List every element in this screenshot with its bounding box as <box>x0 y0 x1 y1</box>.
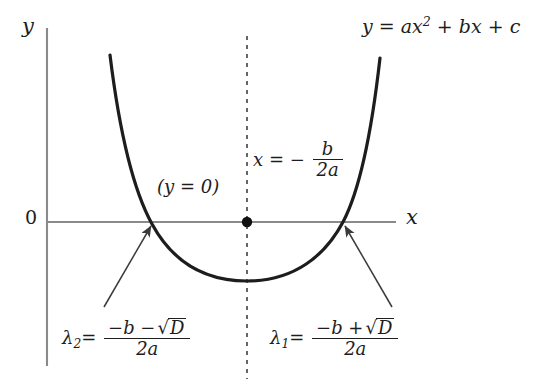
lambda1-symbol: λ <box>270 329 281 347</box>
lambda2-radicand: D <box>168 318 186 337</box>
axis-of-symmetry-label: x = − b 2a <box>253 140 345 179</box>
lambda2-square-root: √D <box>155 318 186 337</box>
curve-equation-variable-x-2: x <box>471 15 482 37</box>
lambda2-equals: = <box>81 329 96 347</box>
curve-equation-plus-1: + <box>431 15 459 37</box>
lambda1-subscript: 1 <box>281 337 289 351</box>
lambda2-denominator: 2a <box>104 339 190 358</box>
curve-equation-exponent: 2 <box>423 14 431 29</box>
curve-equation-coefficient-b: b <box>459 15 471 37</box>
lambda1-denominator: 2a <box>312 339 398 358</box>
lambda2-numerator: −b −√D <box>104 318 190 339</box>
axis-symmetry-equals-minus: = − <box>269 151 305 169</box>
arrow-to-lambda1-root <box>345 226 392 307</box>
lambda1-fraction: −b +√D 2a <box>312 318 398 358</box>
curve-equation-variable-x: x <box>412 15 423 37</box>
origin-label: 0 <box>25 208 37 227</box>
y-equals-zero-label: (y = 0) <box>157 178 219 196</box>
lambda1-root-formula: λ1= −b +√D 2a <box>270 318 400 358</box>
quadratic-function-figure: y x 0 y = ax2 + bx + c (y = 0) x = − b 2… <box>0 0 550 383</box>
lambda1-equals: = <box>289 329 304 347</box>
axis-symmetry-fraction: b 2a <box>313 140 343 179</box>
lambda2-numerator-lead: −b − <box>108 317 155 338</box>
curve-equation-plus-2: + <box>482 15 510 37</box>
curve-equation-equals: = <box>373 15 401 37</box>
axis-symmetry-variable: x <box>253 151 263 169</box>
x-axis-label: x <box>406 207 418 228</box>
axis-intersection-point <box>242 217 252 227</box>
lambda1-square-root: √D <box>363 318 394 337</box>
lambda2-fraction: −b −√D 2a <box>104 318 190 358</box>
curve-equation-constant-c: c <box>510 15 521 37</box>
lambda1-radicand: D <box>376 318 394 337</box>
arrow-to-lambda2-root <box>104 226 151 307</box>
curve-equation-y: y <box>362 15 373 37</box>
curve-equation-coefficient-a: a <box>401 15 412 37</box>
y-axis-label: y <box>22 16 34 37</box>
lambda1-numerator: −b +√D <box>312 318 398 339</box>
axis-symmetry-numerator: b <box>313 140 343 160</box>
lambda1-numerator-lead: −b + <box>316 317 363 338</box>
lambda2-subscript: 2 <box>73 337 81 351</box>
lambda2-symbol: λ <box>62 329 73 347</box>
lambda2-root-formula: λ2= −b −√D 2a <box>62 318 192 358</box>
curve-equation-label: y = ax2 + bx + c <box>362 16 520 36</box>
axis-symmetry-denominator: 2a <box>313 160 343 179</box>
